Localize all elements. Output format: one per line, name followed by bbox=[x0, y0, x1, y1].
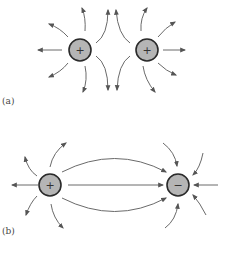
field-line bbox=[26, 196, 37, 215]
field-line bbox=[25, 157, 37, 176]
charge-sign: + bbox=[142, 44, 151, 57]
field-line bbox=[51, 204, 63, 228]
field-line bbox=[49, 63, 68, 77]
field-lines-a bbox=[38, 8, 185, 92]
field-line bbox=[158, 22, 175, 37]
field-line bbox=[163, 143, 177, 166]
panel-label-b: (b) bbox=[2, 226, 15, 236]
panel-b: + − (b) bbox=[2, 143, 218, 236]
field-line bbox=[193, 153, 203, 175]
charge-b-1: + bbox=[39, 174, 61, 196]
charge-sign: + bbox=[45, 179, 54, 192]
charge-sign: + bbox=[75, 44, 84, 57]
field-line bbox=[165, 204, 178, 228]
field-line bbox=[49, 24, 68, 37]
field-line bbox=[193, 195, 206, 215]
field-line bbox=[116, 10, 130, 43]
field-line bbox=[62, 159, 166, 173]
field-line bbox=[96, 56, 108, 90]
charge-b-2: − bbox=[167, 174, 189, 196]
field-line bbox=[141, 8, 147, 31]
field-line bbox=[83, 66, 86, 92]
field-line bbox=[158, 63, 176, 75]
field-line bbox=[62, 198, 166, 212]
field-line bbox=[143, 66, 155, 92]
field-line bbox=[50, 143, 66, 167]
field-line bbox=[82, 8, 85, 31]
charge-a-2: + bbox=[136, 39, 158, 61]
charge-a-1: + bbox=[69, 39, 91, 61]
field-line bbox=[96, 10, 108, 43]
field-line bbox=[117, 56, 130, 90]
panel-label-a: (a) bbox=[2, 96, 14, 106]
panel-a: + + (a) bbox=[2, 8, 185, 106]
charge-sign: − bbox=[173, 179, 182, 192]
electric-field-diagram: + + (a) + bbox=[0, 0, 225, 255]
